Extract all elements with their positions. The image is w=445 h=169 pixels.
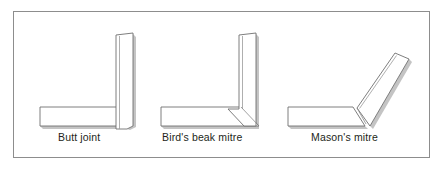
label-birds-beak-mitre: Bird's beak mitre — [162, 131, 242, 143]
diagram-masons-mitre — [288, 53, 412, 129]
joint-diagrams-illustration — [0, 0, 445, 169]
birds-beak-vertical-member — [228, 33, 256, 126]
masons-mitre-inclined-member — [357, 53, 409, 126]
label-masons-mitre: Mason's mitre — [311, 131, 378, 143]
butt-joint-vertical-member — [116, 33, 133, 129]
masons-mitre-horizontal-member — [288, 107, 365, 126]
figure-root: Butt joint Bird's beak mitre Mason's mit… — [0, 0, 445, 169]
diagram-butt-joint — [40, 33, 136, 130]
butt-joint-horizontal-member — [40, 107, 117, 126]
label-butt-joint: Butt joint — [58, 131, 100, 143]
diagram-birds-beak-mitre — [161, 33, 259, 129]
